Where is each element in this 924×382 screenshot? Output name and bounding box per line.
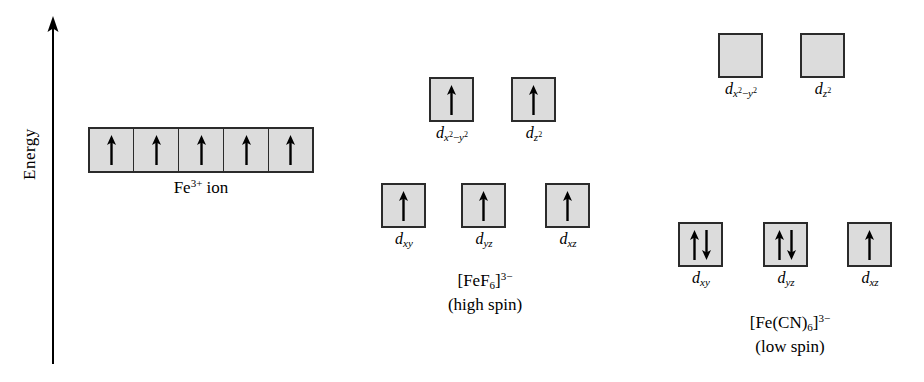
caption-spin-state: (low spin) <box>705 337 875 357</box>
caption-formula-charge: 3− <box>819 312 831 324</box>
orbital-label-sup-2: 2 <box>538 130 542 139</box>
up-arrow-icon <box>46 16 60 364</box>
crystal-field-splitting-diagram: Energy <box>0 0 924 382</box>
energy-axis-arrow <box>46 16 60 364</box>
energy-axis-label: Energy <box>20 140 40 180</box>
electron-arrows <box>802 35 843 76</box>
orbital-box-fecn6-dx2y2 <box>718 33 763 78</box>
orbital-box-fecn6-dxz <box>847 222 892 267</box>
caption-formula-open: [Fe(CN) <box>750 313 808 332</box>
spin-up-arrow-icon <box>152 135 161 165</box>
electron-arrows <box>513 79 554 120</box>
free-ion-caption-element: Fe <box>174 178 191 197</box>
complex-caption-fef6: [FeF6]3− (high spin) <box>415 266 555 315</box>
orbital-label-sub-yz: yz <box>785 276 794 288</box>
electron-arrows <box>431 79 472 120</box>
orbital-label-d: d <box>692 269 700 286</box>
orbital-box-fef6-dxy <box>381 183 426 228</box>
electron-arrows <box>547 185 588 226</box>
orbital-box-fef6-dyz <box>461 183 506 228</box>
orbital-box-fef6-dz2 <box>511 77 556 122</box>
orbital-label-fecn6-dx2y2: dx2−y2 <box>700 80 782 99</box>
electron-arrows <box>224 129 268 171</box>
orbital-label-fef6-dxz: dxz <box>537 230 599 249</box>
orbital-label-fecn6-dxy: dxy <box>670 269 732 288</box>
electron-arrows <box>90 129 133 171</box>
electron-arrows <box>179 129 223 171</box>
orbital-label-d: d <box>526 124 534 141</box>
electron-arrows <box>134 129 178 171</box>
spin-up-arrow-icon <box>529 85 538 115</box>
orbital-label-d: d <box>436 124 444 141</box>
caption-formula-charge: 3− <box>501 270 513 282</box>
orbital-label-fecn6-dxz: dxz <box>839 269 901 288</box>
caption-spin-state: (high spin) <box>415 295 555 315</box>
orbital-label-d: d <box>395 230 403 247</box>
orbital-label-d: d <box>725 80 733 97</box>
free-ion-caption: Fe3+ ion <box>121 177 281 198</box>
orbital-label-sub-xz: xz <box>869 276 878 288</box>
orbital-label-sub-yz: yz <box>483 237 492 249</box>
orbital-box-fecn6-dz2 <box>800 33 845 78</box>
orbital-box-fef6-dx2y2 <box>429 77 474 122</box>
electron-arrows <box>269 129 312 171</box>
orbital-box-free-ion-4 <box>223 127 269 173</box>
orbital-label-fef6-dx2y2: dx2−y2 <box>411 124 493 143</box>
spin-up-arrow-icon <box>865 230 874 260</box>
orbital-label-fecn6-dyz: dyz <box>755 269 817 288</box>
spin-up-arrow-icon <box>775 230 784 260</box>
orbital-label-sub-xz: xz <box>567 237 576 249</box>
orbital-label-d: d <box>815 80 823 97</box>
orbital-box-free-ion-3 <box>178 127 224 173</box>
caption-formula-open: [FeF <box>457 271 489 290</box>
orbital-box-fecn6-dxy <box>678 222 723 267</box>
orbital-label-fef6-dyz: dyz <box>453 230 515 249</box>
free-ion-caption-charge: 3+ <box>191 177 203 189</box>
electron-arrows <box>720 35 761 76</box>
spin-up-arrow-icon <box>286 135 295 165</box>
spin-up-arrow-icon <box>563 191 572 221</box>
spin-up-arrow-icon <box>690 230 699 260</box>
free-ion-caption-tail: ion <box>202 178 228 197</box>
electron-arrows <box>383 185 424 226</box>
spin-up-arrow-icon <box>197 135 206 165</box>
orbital-label-sup-2b: 2 <box>753 86 757 95</box>
spin-up-arrow-icon <box>479 191 488 221</box>
orbital-label-sup-2b: 2 <box>464 130 468 139</box>
orbital-box-fecn6-dyz <box>763 222 808 267</box>
spin-down-arrow-icon <box>702 230 711 260</box>
orbital-box-free-ion-5 <box>268 127 314 173</box>
orbital-box-free-ion-1 <box>88 127 134 173</box>
orbital-box-fef6-dxz <box>545 183 590 228</box>
spin-up-arrow-icon <box>107 135 116 165</box>
complex-caption-fecn6: [Fe(CN)6]3− (low spin) <box>705 308 875 357</box>
electron-arrows <box>849 224 890 265</box>
orbital-label-fef6-dz2: dz2 <box>503 124 565 143</box>
spin-up-arrow-icon <box>399 191 408 221</box>
electron-arrows <box>680 224 721 265</box>
orbital-label-sub-xy: xy <box>700 276 710 288</box>
spin-up-arrow-icon <box>242 135 251 165</box>
electron-arrows <box>765 224 806 265</box>
orbital-label-fef6-dxy: dxy <box>373 230 435 249</box>
orbital-label-fecn6-dz2: dz2 <box>792 80 854 99</box>
orbital-label-sup-2: 2 <box>827 86 831 95</box>
spin-up-arrow-icon <box>447 85 456 115</box>
orbital-label-sub-xy: xy <box>403 237 413 249</box>
spin-down-arrow-icon <box>787 230 796 260</box>
orbital-box-free-ion-2 <box>133 127 179 173</box>
electron-arrows <box>463 185 504 226</box>
